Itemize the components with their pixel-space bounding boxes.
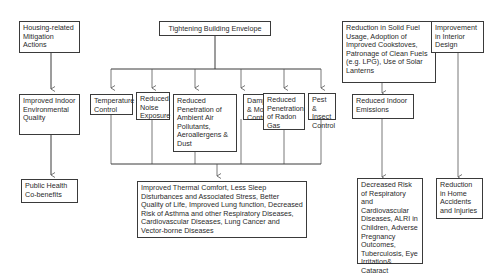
effect-noise-box: Reduced Noise Exposure [136,92,170,120]
environmental-quality-box: Improved Indoor Environmental Quality [19,94,80,135]
effect-pest-box: Pest & Insect Control [308,93,336,120]
home-accidents-box: Reduction in Home Accidents and Injuries [436,178,483,219]
tightening-envelope-box: Tightening Building Envelope [159,21,271,36]
solid-fuel-box: Reduction in Solid Fuel Usage, Adoption … [342,21,436,83]
effect-air-pollutants-box: Reduced Penetration of Ambient Air Pollu… [173,94,237,152]
reduced-emissions-box: Reduced Indoor Emissions [352,94,414,119]
mitigation-actions-box: Housing-related Mitigation Actions [19,21,80,53]
effect-radon-box: Reduced Penetration of Radon Gas [263,93,305,130]
interior-design-box: Improvement in Interior Design [431,21,484,53]
cobenefits-box: Public Health Co-benefits [21,179,78,203]
envelope-outcome-box: Improved Thermal Comfort, Less Sleep Dis… [137,181,307,238]
fuel-outcome-box: Decreased Risk of Respiratory and Cardio… [357,178,423,264]
effect-temperature-box: Temperature Control [90,94,133,115]
